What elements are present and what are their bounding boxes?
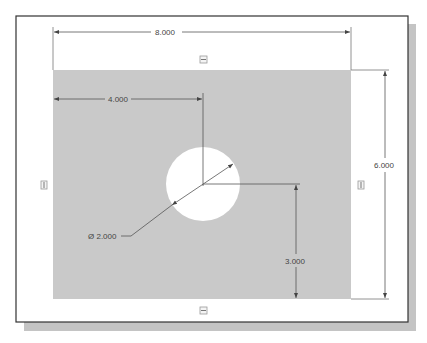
dimension-text-width: 8.000 <box>155 28 176 37</box>
dimension-text-diameter: Ø 2.000 <box>88 232 117 241</box>
dimension-text-height: 6.000 <box>374 161 395 170</box>
resize-handle-top[interactable] <box>200 56 207 63</box>
dimension-text-hole-x: 4.000 <box>108 95 129 104</box>
resize-handle-left[interactable] <box>41 181 47 189</box>
resize-handle-right[interactable] <box>358 181 364 189</box>
dimension-text-hole-y: 3.000 <box>285 257 306 266</box>
cad-drawing-canvas: 8.000 6.000 4.000 3.000 Ø 2.000 <box>0 0 427 343</box>
resize-handle-bottom[interactable] <box>200 307 207 314</box>
